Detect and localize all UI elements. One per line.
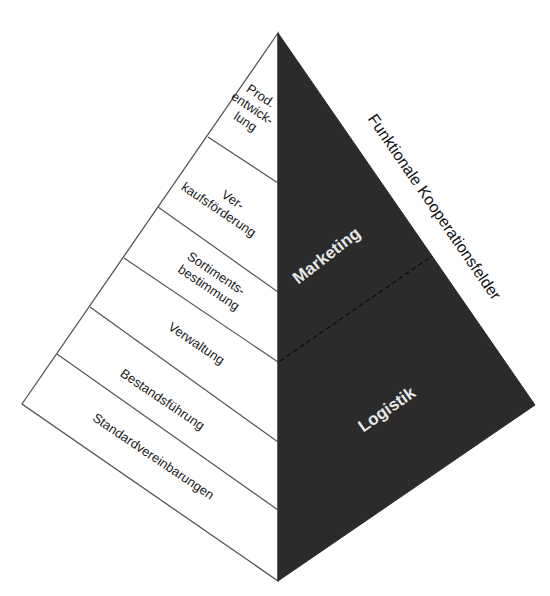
pyramid-diagram: Prod. entwick- lung Ver- kaufsförderung … [0, 0, 550, 596]
pyramid-right-face [278, 33, 535, 581]
